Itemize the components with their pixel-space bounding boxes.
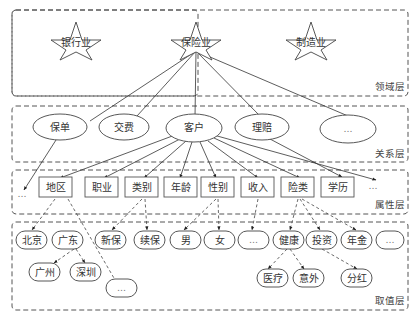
relation-node-label: 交费 [114, 121, 134, 133]
value-node-new-policy[interactable]: 新保 [95, 231, 126, 249]
value-node-label: 医疗 [263, 272, 283, 284]
domain-node-label: 制造业 [296, 36, 326, 48]
value-node-label: 健康 [279, 234, 299, 246]
attribute-node-label: 学历 [328, 181, 348, 193]
attribute-node-region[interactable]: 地区 [39, 177, 72, 197]
value-node-guangdong[interactable]: 广东 [52, 231, 83, 249]
value-node-label: 男 [181, 235, 191, 246]
relation-node-more[interactable]: … [320, 115, 376, 143]
relation-node-label: 保单 [50, 121, 70, 133]
attribute-node-more-left: … [18, 189, 27, 199]
relation-node-label: 客户 [184, 121, 204, 133]
value-node-label: 续保 [140, 234, 160, 246]
attribute-node-age[interactable]: 年龄 [164, 177, 197, 197]
value-node-label: 广州 [35, 267, 55, 278]
value-node-more-regions[interactable]: … [106, 279, 137, 297]
value-node-annuity[interactable]: 年金 [341, 231, 372, 249]
value-node-shenzhen[interactable]: 深圳 [70, 263, 101, 281]
value-node-renewal[interactable]: 续保 [134, 231, 165, 249]
value-node-label: … [117, 283, 126, 293]
value-node-label: 投资 [312, 234, 332, 246]
value-layer-label: 取值层 [375, 295, 405, 306]
relation-node-payment[interactable]: 交费 [99, 114, 149, 140]
value-node-investment[interactable]: 投资 [306, 231, 337, 249]
knowledge-hierarchy-diagram: 领域层 关系层 属性层 取值层 [0, 0, 418, 318]
domain-node-label: 银行业 [61, 36, 91, 48]
value-node-more-types[interactable]: … [376, 231, 404, 249]
domain-node-label: 保险业 [181, 36, 211, 48]
attribute-node-insurance-type[interactable]: 险类 [281, 177, 314, 197]
attribute-node-education[interactable]: 学历 [321, 177, 354, 197]
domain-layer-frame-left [12, 10, 198, 96]
value-node-beijing[interactable]: 北京 [16, 231, 47, 249]
value-node-label: 意外 [299, 272, 319, 284]
value-node-label: 年金 [347, 234, 367, 246]
relation-node-label: 理赔 [252, 121, 272, 133]
value-node-medical[interactable]: 医疗 [257, 269, 288, 287]
value-node-accident[interactable]: 意外 [293, 269, 324, 287]
value-node-label: 北京 [22, 234, 42, 246]
attribute-layer-label: 属性层 [375, 199, 405, 210]
value-node-guangzhou[interactable]: 广州 [29, 263, 60, 281]
value-node-label: 女 [215, 234, 225, 246]
attribute-node-income[interactable]: 收入 [241, 177, 274, 197]
attribute-node-label: 险类 [288, 181, 308, 193]
value-node-dividend[interactable]: 分红 [341, 269, 372, 287]
value-node-label: … [386, 235, 395, 245]
attribute-node-label: 性别 [208, 181, 228, 193]
value-node-more-income[interactable]: … [238, 231, 269, 249]
relation-node-customer[interactable]: 客户 [166, 114, 222, 142]
attribute-node-category[interactable]: 类别 [125, 177, 158, 197]
domain-layer-label: 领域层 [375, 81, 405, 92]
attribute-node-gender[interactable]: 性别 [201, 177, 234, 197]
value-node-label: 分红 [347, 272, 367, 284]
domain-relation-edges [90, 51, 348, 121]
value-node-label: 深圳 [76, 267, 96, 278]
value-node-female[interactable]: 女 [204, 231, 235, 249]
relation-layer-label: 关系层 [375, 148, 405, 159]
value-node-male[interactable]: 男 [170, 231, 201, 249]
domain-node-banking[interactable]: 银行业 [51, 22, 101, 60]
value-node-health[interactable]: 健康 [273, 231, 304, 249]
value-node-label: … [249, 235, 258, 245]
attribute-node-label: 地区 [46, 181, 66, 193]
relation-node-policy[interactable]: 保单 [33, 114, 87, 140]
attribute-node-more-right: … [369, 181, 378, 191]
attribute-node-label: 收入 [248, 181, 268, 193]
attribute-node-occupation[interactable]: 职业 [85, 177, 118, 197]
value-node-label: 新保 [101, 234, 121, 246]
relation-node-label: … [344, 124, 353, 134]
attribute-node-label: 职业 [92, 182, 112, 193]
domain-node-manufacturing[interactable]: 制造业 [286, 22, 336, 60]
value-node-label: 广东 [58, 234, 78, 246]
attribute-node-label: 年龄 [171, 181, 191, 193]
relation-node-claim[interactable]: 理赔 [235, 114, 289, 140]
attribute-node-label: 类别 [132, 181, 152, 193]
